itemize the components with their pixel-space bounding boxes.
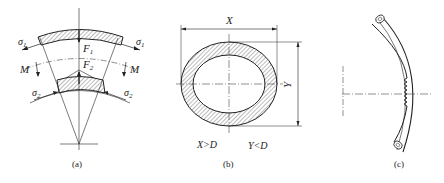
- sigma1-left-label: σ1: [18, 36, 26, 49]
- caption-c: (c): [394, 159, 404, 169]
- x-dimension-label: X: [225, 14, 234, 26]
- M-left-label: M: [19, 63, 30, 75]
- arrowhead: [36, 72, 40, 77]
- bend-mid-line: [378, 20, 406, 150]
- arrowhead: [77, 38, 81, 43]
- bend-outer-wall: [383, 18, 413, 152]
- F1-label: F1: [82, 42, 93, 56]
- arrowhead: [297, 121, 300, 126]
- arrowhead: [297, 42, 300, 47]
- condition-x: X>D: [196, 139, 218, 150]
- panel-b-oval-section: X Y X>D Y<D (b): [176, 14, 302, 169]
- sigma2-left-label: σ2: [32, 87, 41, 100]
- figure-canvas: σ1 σ1 σ2 σ2 F1 F2 M M (a) X Y X>D Y<D (b…: [0, 0, 444, 183]
- condition-y: Y<D: [248, 140, 268, 151]
- y-dimension-label: Y: [281, 80, 293, 88]
- M-right-label: M: [129, 63, 140, 75]
- arrowhead: [122, 72, 126, 77]
- neutral-axis-arc: [25, 59, 135, 70]
- panel-c-wrinkled-bend: (c): [342, 14, 431, 169]
- caption-a: (a): [72, 159, 82, 169]
- arrowhead: [272, 28, 277, 31]
- inner-arc: [30, 91, 130, 104]
- top-end-cap: [374, 14, 385, 25]
- F2-label: F2: [82, 58, 94, 72]
- caption-b: (b): [223, 159, 234, 169]
- panel-a-bending-section: σ1 σ1 σ2 σ2 F1 F2 M M (a): [18, 8, 144, 169]
- outer-wall-segment: [38, 30, 123, 46]
- arrowhead: [181, 28, 186, 31]
- sigma2-right-label: σ2: [124, 87, 133, 100]
- sigma1-right-label: σ1: [136, 36, 144, 49]
- arrowhead: [77, 71, 81, 76]
- bend-inner-wall-wrinkled: [372, 24, 407, 142]
